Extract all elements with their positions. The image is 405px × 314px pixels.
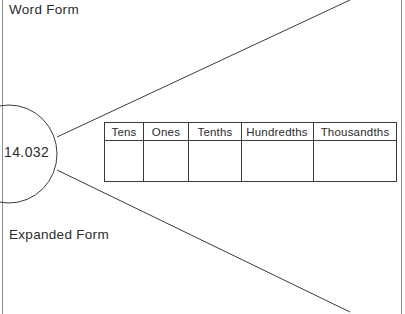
table-header-tenths: Tenths <box>197 126 232 138</box>
table-header-ones: Ones <box>152 126 180 138</box>
number-oval-value: 14.032 <box>4 145 49 159</box>
place-value-diagram: Tens Ones Tenths Hundredths Thousandths <box>0 0 405 314</box>
expanded-form-label: Expanded Form <box>9 228 109 242</box>
word-form-label: Word Form <box>9 3 79 17</box>
table-header-hundredths: Hundredths <box>246 126 308 138</box>
table-header-tens: Tens <box>111 126 136 138</box>
table-header-thousandths: Thousandths <box>321 126 390 138</box>
worksheet-page: Tens Ones Tenths Hundredths Thousandths … <box>0 0 405 314</box>
connector-line-word-form <box>57 0 350 137</box>
